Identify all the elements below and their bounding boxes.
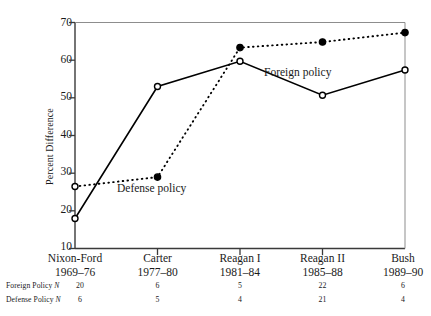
footer-value-foreign-reagan-ii: 22 <box>319 281 327 290</box>
series-defense-policy-line <box>75 33 405 187</box>
x-category-years: 1989–90 <box>383 266 423 280</box>
footer-value-defense-bush: 4 <box>401 295 405 304</box>
x-category-name: Reagan II <box>300 252 345 264</box>
footer-value-foreign-nixon-ford: 20 <box>76 281 84 290</box>
footer-value-defense-nixon-ford: 6 <box>78 295 82 304</box>
x-category-bush: Bush 1989–90 <box>383 252 423 279</box>
x-category-name: Reagan I <box>219 252 260 264</box>
x-category-name: Nixon-Ford <box>48 252 102 264</box>
footer-row-label-foreign-policy: Foreign Policy N <box>6 281 60 290</box>
chart-figure: Percent Difference 70 60 50 40 30 20 10 <box>0 0 431 316</box>
footer-value-defense-reagan-i: 4 <box>238 295 242 304</box>
footer-row-label-defense-policy: Defense Policy N <box>6 295 61 304</box>
x-category-reagan-i: Reagan I 1981–84 <box>219 252 260 279</box>
x-category-years: 1977–80 <box>137 266 177 280</box>
x-category-nixon-ford: Nixon-Ford 1969–76 <box>48 252 102 279</box>
x-category-years: 1969–76 <box>48 266 102 280</box>
y-axis-ticks <box>69 23 75 249</box>
footer-row-symbol: N <box>54 281 59 290</box>
x-category-name: Carter <box>143 252 172 264</box>
footer-row-symbol: N <box>56 295 61 304</box>
footer-value-defense-carter: 5 <box>156 295 160 304</box>
annotation-defense-policy: Defense policy <box>117 182 186 194</box>
series-foreign-policy-line <box>75 61 405 218</box>
x-category-years: 1985–88 <box>300 266 345 280</box>
series-foreign-policy-markers <box>72 58 408 221</box>
footer-row-label-text: Foreign Policy <box>6 281 52 290</box>
footer-value-foreign-carter: 6 <box>156 281 160 290</box>
axis-frame <box>75 23 405 249</box>
x-category-carter: Carter 1977–80 <box>137 252 177 279</box>
annotation-foreign-policy: Foreign policy <box>264 66 331 78</box>
x-category-name: Bush <box>391 252 415 264</box>
x-category-reagan-ii: Reagan II 1985–88 <box>300 252 345 279</box>
footer-value-foreign-bush: 6 <box>401 281 405 290</box>
footer-value-defense-reagan-ii: 21 <box>319 295 327 304</box>
footer-row-label-text: Defense Policy <box>6 295 54 304</box>
series-defense-policy-markers <box>72 29 408 189</box>
x-category-years: 1981–84 <box>219 266 260 280</box>
footer-value-foreign-reagan-i: 5 <box>238 281 242 290</box>
